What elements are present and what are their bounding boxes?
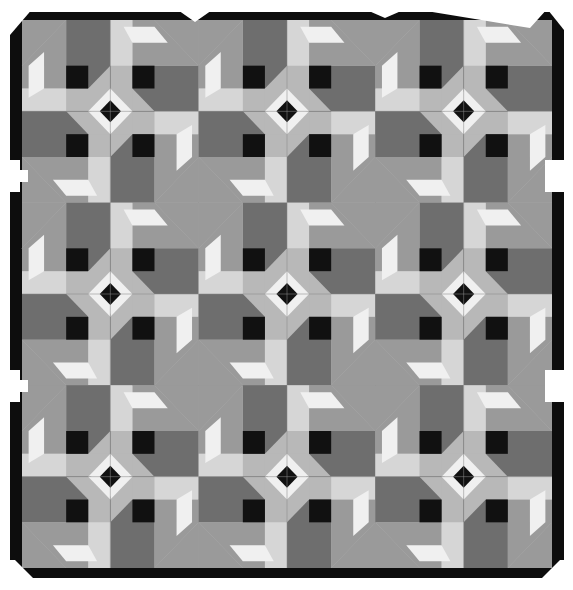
black-square [486, 500, 508, 523]
edge-notch [545, 392, 565, 402]
black-square [132, 248, 154, 271]
black-square [66, 134, 88, 157]
quilt-block [199, 385, 376, 568]
hook-band [375, 89, 419, 112]
black-square [420, 500, 442, 523]
block-quadrant [375, 294, 463, 385]
quilt-blocks [22, 20, 552, 568]
hook-band [265, 522, 287, 568]
black-square [309, 134, 331, 157]
black-square [243, 248, 265, 271]
hook-band [331, 111, 375, 134]
hook-band [508, 477, 552, 500]
black-square [420, 317, 442, 340]
block-quadrant [22, 111, 110, 202]
edge-notch [545, 380, 573, 392]
black-square [66, 66, 88, 89]
edge-notch [0, 182, 20, 192]
black-square [486, 248, 508, 271]
block-quadrant [287, 20, 375, 111]
block-quadrant [199, 294, 287, 385]
block-quadrant [199, 203, 287, 294]
block-quadrant [375, 385, 463, 476]
quilt-block [22, 385, 199, 568]
edge-notch [0, 160, 20, 170]
quilt-block [375, 385, 552, 568]
quilt-block [22, 203, 199, 386]
hook-band [508, 294, 552, 317]
quilt-canvas [0, 0, 573, 590]
hook-band [88, 522, 110, 568]
black-square [486, 134, 508, 157]
black-square [486, 317, 508, 340]
quilt-block [199, 203, 376, 386]
black-square [243, 431, 265, 454]
block-quadrant [464, 20, 552, 111]
block-quadrant [22, 477, 110, 568]
black-square [309, 431, 331, 454]
block-quadrant [199, 111, 287, 202]
quilt-block [375, 203, 552, 386]
hook-band [331, 477, 375, 500]
quilt-block [199, 20, 376, 203]
black-square [66, 500, 88, 523]
edge-notch [545, 170, 573, 182]
edge-notch [0, 170, 28, 182]
black-square [132, 134, 154, 157]
edge-notch [545, 160, 565, 170]
black-square [66, 431, 88, 454]
hook-band [375, 271, 419, 294]
black-square [66, 317, 88, 340]
quilt-block [375, 20, 552, 203]
block-quadrant [110, 294, 198, 385]
black-square [486, 66, 508, 89]
block-quadrant [287, 385, 375, 476]
black-square [486, 431, 508, 454]
block-quadrant [375, 111, 463, 202]
edge-notch [0, 392, 20, 402]
block-quadrant [110, 385, 198, 476]
hook-band [331, 294, 375, 317]
black-square [132, 431, 154, 454]
black-square [243, 66, 265, 89]
hook-band [508, 111, 552, 134]
hook-band [442, 522, 464, 568]
block-quadrant [22, 385, 110, 476]
block-quadrant [110, 111, 198, 202]
black-square [420, 134, 442, 157]
block-quadrant [199, 20, 287, 111]
block-quadrant [110, 477, 198, 568]
black-square [243, 500, 265, 523]
black-square [309, 500, 331, 523]
block-quadrant [199, 385, 287, 476]
block-quadrant [464, 111, 552, 202]
block-quadrant [464, 385, 552, 476]
block-quadrant [464, 203, 552, 294]
block-quadrant [464, 294, 552, 385]
black-square [420, 248, 442, 271]
block-quadrant [199, 477, 287, 568]
block-quadrant [375, 203, 463, 294]
black-square [243, 134, 265, 157]
quilt-block [22, 20, 199, 203]
edge-notch [0, 380, 28, 392]
black-square [309, 317, 331, 340]
quilt-photo [0, 0, 573, 590]
edge-notch [545, 370, 565, 380]
block-quadrant [110, 20, 198, 111]
black-square [420, 66, 442, 89]
black-square [420, 431, 442, 454]
block-quadrant [464, 477, 552, 568]
block-quadrant [287, 294, 375, 385]
block-quadrant [287, 111, 375, 202]
block-quadrant [287, 477, 375, 568]
black-square [132, 66, 154, 89]
black-square [132, 317, 154, 340]
black-square [309, 248, 331, 271]
black-square [243, 317, 265, 340]
bottom-edge-cut [0, 578, 573, 590]
edge-notch [0, 370, 20, 380]
block-quadrant [22, 203, 110, 294]
block-quadrant [287, 203, 375, 294]
block-quadrant [22, 20, 110, 111]
